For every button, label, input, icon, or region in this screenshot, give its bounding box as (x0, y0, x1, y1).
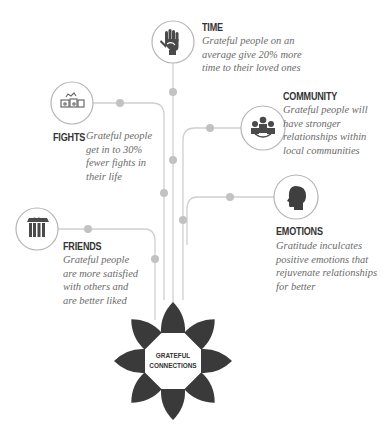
friends-desc-line: Grateful people (63, 253, 138, 267)
community-desc-line: have stronger (283, 117, 368, 131)
fights-icon-circle (51, 82, 93, 124)
emotions-description: Gratitude inculcates positive emotions t… (276, 239, 377, 293)
community-desc-line: Grateful people will (283, 103, 368, 117)
fights-description: Grateful people get in to 30% fewer figh… (86, 129, 152, 183)
fights-desc-line: their life (86, 170, 152, 184)
community-connector (183, 128, 241, 300)
emotions-desc-line: positive emotions that (276, 253, 377, 267)
time-desc-line: time to their loved ones (202, 61, 302, 75)
emotions-title: EMOTIONS (276, 225, 323, 237)
friends-title: FRIENDS (63, 240, 101, 252)
community-description: Grateful people will have stronger relat… (283, 103, 368, 157)
center-label-line1: GRATEFUL (141, 351, 205, 361)
friends-desc-line: are better liked (63, 294, 138, 308)
community-desc-line: relationships within (283, 130, 368, 144)
fights-title: FIGHTS (53, 131, 85, 143)
emotions-desc-line: for better (276, 280, 377, 294)
community-title: COMMUNITY (283, 90, 337, 102)
emotions-desc-line: Gratitude inculcates (276, 239, 377, 253)
friends-desc-line: with others and (63, 280, 138, 294)
fights-desc-line: fewer fights in (86, 156, 152, 170)
fights-desc-line: Grateful people (86, 129, 152, 143)
friends-description: Grateful people are more satisfied with … (63, 253, 138, 307)
emotions-connector (187, 197, 275, 245)
friends-icon-circle (16, 208, 58, 250)
friends-desc-line: are more satisfied (63, 267, 138, 281)
community-desc-line: local communities (283, 144, 368, 158)
time-description: Grateful people on an average give 20% m… (202, 34, 302, 75)
center-label: GRATEFUL CONNECTIONS (141, 351, 205, 371)
emotions-desc-line: rejuvenate relationships (276, 266, 377, 280)
time-desc-line: average give 20% more (202, 48, 302, 62)
time-title: TIME (202, 21, 223, 33)
fights-desc-line: get in to 30% (86, 143, 152, 157)
center-label-line2: CONNECTIONS (141, 361, 205, 371)
time-desc-line: Grateful people on an (202, 34, 302, 48)
